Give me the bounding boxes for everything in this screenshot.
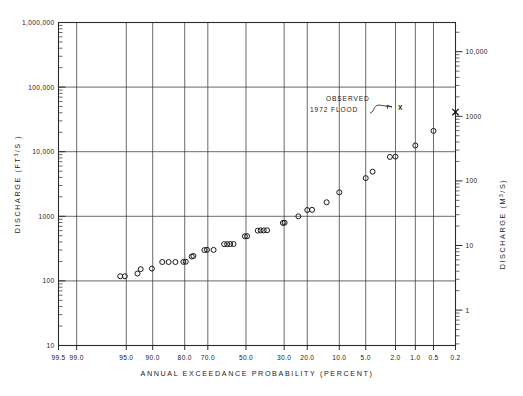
x-tick-label: 0.5: [428, 354, 438, 361]
x-tick-label: 70.0: [201, 354, 215, 361]
x-tick-label: 0.2: [450, 354, 460, 361]
y2-tick-label: 10: [466, 242, 474, 249]
flood-frequency-figure: 1,000,000100,00010,00010001001010,000100…: [0, 0, 523, 396]
y2-axis-title: DISCHARGE (M3/S): [498, 179, 507, 270]
annotation-line-2: 1972 FLOOD: [310, 106, 358, 113]
data-point: [310, 207, 315, 212]
data-point: [231, 242, 236, 247]
data-point: [138, 267, 143, 272]
data-point: [324, 200, 329, 205]
data-point: [160, 260, 165, 265]
x-tick-label: 90.0: [146, 354, 160, 361]
x-tick-label: 20.0: [300, 354, 314, 361]
x-tick-label: 10.0: [332, 354, 346, 361]
y2-tick-label: 100: [466, 177, 478, 184]
x-tick-label: 1.0: [410, 354, 420, 361]
y-axis-title: DISCHARGE (FT3/S ): [13, 135, 22, 234]
y-tick-label: 10,000: [32, 148, 54, 155]
y-tick-label: 1000: [38, 213, 54, 220]
flood-frequency-chart: 1,000,000100,00010,00010001001010,000100…: [0, 0, 523, 396]
data-point: [265, 228, 270, 233]
x-tick-label: 2.0: [390, 354, 400, 361]
y-tick-label: 100: [42, 277, 54, 284]
x-tick-label: 99.0: [70, 354, 84, 361]
y-tick-label: 10: [46, 342, 54, 349]
y2-tick-label: 1: [466, 307, 470, 314]
annotation-arrowhead: [387, 105, 392, 109]
x-tick-label: 30.0: [277, 354, 291, 361]
y-tick-label: 1,000,000: [22, 19, 54, 26]
annotation-line-1: OBSERVED: [326, 95, 370, 102]
y2-tick-label: 1000: [466, 113, 482, 120]
x-tick-label: 80.0: [178, 354, 192, 361]
data-point: [211, 247, 216, 252]
x-tick-label: 50.0: [239, 354, 253, 361]
x-tick-label: 5.0: [361, 354, 371, 361]
data-point: [149, 266, 154, 271]
y2-tick-label: 10,000: [466, 48, 488, 55]
data-point: [166, 260, 171, 265]
x-tick-label: 99.5: [51, 354, 65, 361]
data-point: [387, 154, 392, 159]
x-tick-label: 95.0: [119, 354, 133, 361]
y-tick-label: 100,000: [28, 84, 54, 91]
x-axis-title: ANNUAL EXCEEDANCE PROBABILITY (PERCENT): [141, 369, 374, 378]
data-point: [173, 260, 178, 265]
data-point: [135, 271, 140, 276]
data-point: [370, 169, 375, 174]
annotation-marker-label: X: [398, 104, 403, 111]
plot-frame: [59, 23, 456, 346]
